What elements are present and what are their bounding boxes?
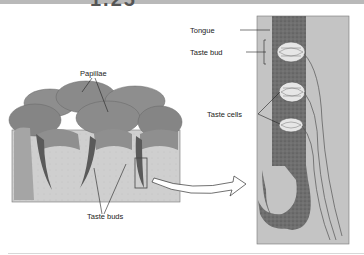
bottom-rule xyxy=(8,253,364,254)
taste-bud-3 xyxy=(279,118,303,132)
taste-bud-illustration xyxy=(0,0,364,255)
tongue-section-panel xyxy=(257,16,349,244)
label-papillae: Papillae xyxy=(80,69,107,78)
label-taste-buds: Taste buds xyxy=(87,212,123,221)
taste-bud-2 xyxy=(279,82,305,102)
taste-bud-1 xyxy=(277,42,305,62)
label-taste-bud: Taste bud xyxy=(190,48,223,57)
label-taste-cells: Taste cells xyxy=(207,110,242,119)
label-tongue: Tongue xyxy=(190,26,215,35)
